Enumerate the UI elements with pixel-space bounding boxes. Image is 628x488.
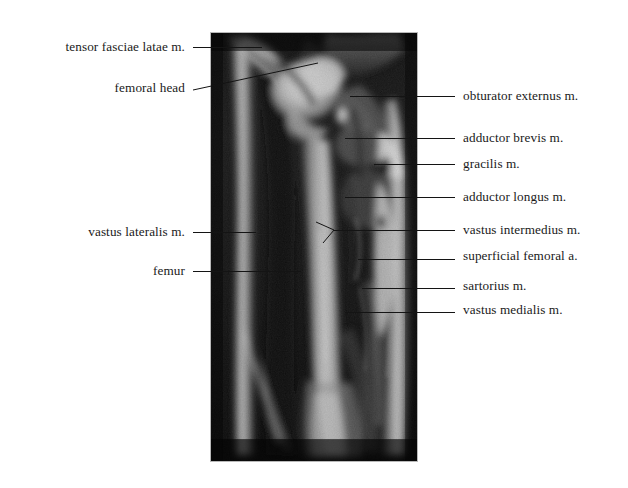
mri-pixel-content xyxy=(211,33,417,461)
annotated-mri-figure: tensor fasciae latae m. femoral head vas… xyxy=(0,0,628,488)
label-sartorius: sartorius m. xyxy=(463,279,526,292)
label-vastus-medialis: vastus medialis m. xyxy=(463,303,563,316)
label-adductor-longus: adductor longus m. xyxy=(463,190,566,203)
label-femur: femur xyxy=(153,264,185,277)
label-gracilis: gracilis m. xyxy=(463,157,520,170)
label-vastus-intermedius: vastus intermedius m. xyxy=(463,223,580,236)
label-tensor-fasciae-latae: tensor fasciae latae m. xyxy=(66,40,185,53)
label-adductor-brevis: adductor brevis m. xyxy=(463,131,563,144)
label-femoral-head: femoral head xyxy=(115,81,185,94)
label-vastus-lateralis: vastus lateralis m. xyxy=(88,225,185,238)
coronal-thigh-mri-image xyxy=(210,32,418,462)
label-superficial-femoral-artery: superficial femoral a. xyxy=(463,249,578,262)
label-obturator-externus: obturator externus m. xyxy=(463,89,578,102)
